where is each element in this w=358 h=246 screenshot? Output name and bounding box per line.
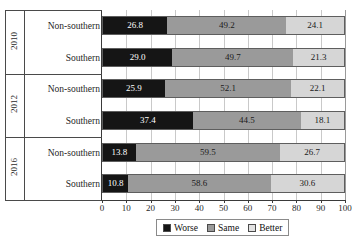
table-row: 13.859.526.7 <box>102 143 345 162</box>
legend-item-worse[interactable]: Worse <box>163 223 198 233</box>
plot-right-border <box>345 10 346 200</box>
chart-gridlines <box>102 10 345 200</box>
bar-segment-same: 44.5 <box>193 111 301 130</box>
gridline-10 <box>126 10 127 200</box>
bar-segment-worse: 10.8 <box>102 174 128 193</box>
year-group-label-2010: 2010 <box>4 36 24 46</box>
legend-item-label: Worse <box>174 223 198 233</box>
bar-segment-worse: 37.4 <box>102 111 193 130</box>
year-column-divider <box>24 10 25 200</box>
bar-segment-same: 58.6 <box>128 174 270 193</box>
bar-segment-better: 24.1 <box>286 16 345 35</box>
gridline-20 <box>151 10 152 200</box>
year-group-label-text: 2016 <box>9 158 19 176</box>
gridline-50 <box>224 10 225 200</box>
legend-item-same[interactable]: Same <box>207 223 239 233</box>
legend-swatch-better-icon <box>248 224 256 232</box>
group-divider-top <box>5 10 102 11</box>
legend-swatch-worse-icon <box>163 224 171 232</box>
year-group-label-2016: 2016 <box>4 162 24 172</box>
bar-segment-worse: 13.8 <box>102 143 136 162</box>
year-group-label-text: 2012 <box>9 95 19 113</box>
row-label-2016-southern: Southern <box>24 179 100 189</box>
bar-segment-better: 21.3 <box>293 48 345 67</box>
legend-item-better[interactable]: Better <box>248 223 282 233</box>
bar-segment-same: 59.5 <box>136 143 281 162</box>
gridline-80 <box>296 10 297 200</box>
row-label-2016-non-southern: Non-southern <box>24 148 100 158</box>
table-row: 25.952.122.1 <box>102 79 345 98</box>
row-label-2010-non-southern: Non-southern <box>24 21 100 31</box>
bar-segment-same: 49.2 <box>167 16 286 35</box>
table-row: 37.444.518.1 <box>102 111 345 130</box>
bar-segment-same: 52.1 <box>165 79 291 98</box>
table-row: 10.858.630.6 <box>102 174 345 193</box>
bar-segment-same: 49.7 <box>172 48 293 67</box>
gridline-0 <box>102 10 103 200</box>
year-group-label-text: 2010 <box>9 32 19 50</box>
gridline-90 <box>321 10 322 200</box>
table-row: 29.049.721.3 <box>102 48 345 67</box>
bar-segment-better: 18.1 <box>301 111 345 130</box>
group-divider-1 <box>5 74 102 75</box>
gridline-40 <box>199 10 200 200</box>
y-axis-line <box>101 10 102 200</box>
stacked-bar-chart: 2010Non-southern26.849.224.1Southern29.0… <box>0 0 358 246</box>
bar-segment-worse: 26.8 <box>102 16 167 35</box>
bar-segment-worse: 25.9 <box>102 79 165 98</box>
bar-segment-worse: 29.0 <box>102 48 172 67</box>
legend-item-label: Better <box>259 223 282 233</box>
legend-swatch-same-icon <box>207 224 215 232</box>
row-label-2012-non-southern: Non-southern <box>24 84 100 94</box>
gridline-60 <box>248 10 249 200</box>
bar-segment-better: 30.6 <box>271 174 345 193</box>
table-row: 26.849.224.1 <box>102 16 345 35</box>
chart-legend: WorseSameBetter <box>156 219 289 236</box>
bar-segment-better: 22.1 <box>291 79 345 98</box>
x-tick-label-100: 100 <box>330 203 358 213</box>
gridline-70 <box>272 10 273 200</box>
legend-item-label: Same <box>218 223 239 233</box>
year-group-label-2012: 2012 <box>4 99 24 109</box>
bar-segment-better: 26.7 <box>280 143 345 162</box>
row-label-2012-southern: Southern <box>24 116 100 126</box>
group-divider-bottom <box>5 200 102 201</box>
group-divider-2 <box>5 137 102 138</box>
gridline-30 <box>175 10 176 200</box>
row-label-2010-southern: Southern <box>24 53 100 63</box>
